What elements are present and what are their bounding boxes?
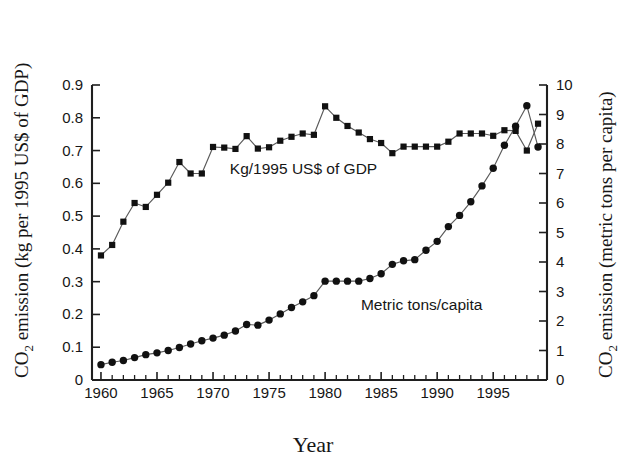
right-tick-label: 9 <box>556 106 564 123</box>
data-point-square <box>490 133 496 139</box>
data-point-square <box>288 134 294 140</box>
data-point-square <box>378 140 384 146</box>
data-point-circle <box>478 182 485 189</box>
data-point-circle <box>534 143 541 150</box>
data-point-circle <box>165 347 172 354</box>
data-point-circle <box>422 247 429 254</box>
data-point-circle <box>221 331 228 338</box>
data-point-square <box>456 130 462 136</box>
data-point-circle <box>344 277 351 284</box>
data-point-circle <box>254 321 261 328</box>
data-point-square <box>120 219 126 225</box>
left-tick-label: 0.8 <box>62 109 83 126</box>
data-point-square <box>199 170 205 176</box>
data-point-circle <box>333 277 340 284</box>
data-point-circle <box>209 334 216 341</box>
data-point-circle <box>288 304 295 311</box>
data-point-square <box>277 138 283 144</box>
left-tick-label: 0.5 <box>62 207 83 224</box>
x-tick-label: 1990 <box>420 384 453 401</box>
data-point-square <box>468 130 474 136</box>
data-point-square <box>501 127 507 133</box>
data-point-square <box>221 145 227 151</box>
right-tick-label: 10 <box>556 76 573 93</box>
x-tick-label: 1965 <box>140 384 173 401</box>
data-point-circle <box>501 141 508 148</box>
left-tick-label: 0.6 <box>62 174 83 191</box>
left-tick-label: 0.1 <box>62 338 83 355</box>
data-point-square <box>143 204 149 210</box>
data-point-circle <box>310 292 317 299</box>
data-point-square <box>255 145 261 151</box>
data-point-circle <box>108 359 115 366</box>
left-tick-label: 0.7 <box>62 142 83 159</box>
data-point-circle <box>355 277 362 284</box>
x-tick-label: 1980 <box>308 384 341 401</box>
series-annotation-square: Kg/1995 US$ of GDP <box>230 160 377 177</box>
data-point-square <box>434 144 440 150</box>
left-tick-label: 0.9 <box>62 76 83 93</box>
x-tick-label: 1960 <box>84 384 117 401</box>
right-tick-label: 2 <box>556 312 564 329</box>
data-point-circle <box>265 316 272 323</box>
data-point-square <box>389 150 395 156</box>
data-point-square <box>232 146 238 152</box>
data-point-square <box>344 123 350 129</box>
left-tick-label: 0.2 <box>62 305 83 322</box>
data-point-circle <box>400 257 407 264</box>
data-point-square <box>154 192 160 198</box>
x-tick-label: 1970 <box>196 384 229 401</box>
data-point-square <box>322 103 328 109</box>
data-point-circle <box>153 349 160 356</box>
data-point-square <box>479 130 485 136</box>
data-point-square <box>524 147 530 153</box>
data-point-square <box>109 242 115 248</box>
x-axis-title: Year <box>293 432 334 457</box>
chart-background <box>0 0 626 474</box>
data-point-square <box>98 252 104 258</box>
data-point-circle <box>277 310 284 317</box>
data-point-circle <box>142 351 149 358</box>
data-point-circle <box>411 256 418 263</box>
data-point-circle <box>176 344 183 351</box>
data-point-circle <box>467 198 474 205</box>
data-point-circle <box>433 238 440 245</box>
data-point-square <box>210 144 216 150</box>
right-tick-label: 7 <box>556 165 564 182</box>
data-point-circle <box>299 298 306 305</box>
data-point-square <box>176 159 182 165</box>
right-tick-label: 0 <box>556 371 564 388</box>
x-tick-label: 1975 <box>252 384 285 401</box>
data-point-square <box>423 144 429 150</box>
data-point-circle <box>243 321 250 328</box>
data-point-square <box>244 133 250 139</box>
data-point-square <box>165 180 171 186</box>
x-tick-label: 1985 <box>364 384 397 401</box>
right-tick-label: 4 <box>556 253 564 270</box>
left-tick-label: 0.3 <box>62 273 83 290</box>
data-point-square <box>535 121 541 127</box>
data-point-circle <box>198 337 205 344</box>
data-point-circle <box>512 123 519 130</box>
right-tick-label: 3 <box>556 283 564 300</box>
data-point-square <box>445 139 451 145</box>
chart-figure: 19601965197019751980198519901995 00.10.2… <box>0 0 626 474</box>
data-point-circle <box>120 357 127 364</box>
left-tick-label: 0.4 <box>62 240 83 257</box>
data-point-circle <box>377 270 384 277</box>
right-tick-label: 8 <box>556 135 564 152</box>
right-tick-label: 5 <box>556 224 564 241</box>
data-point-circle <box>490 164 497 171</box>
data-point-circle <box>366 275 373 282</box>
data-point-square <box>300 130 306 136</box>
data-point-square <box>412 144 418 150</box>
data-point-circle <box>131 354 138 361</box>
data-point-square <box>400 144 406 150</box>
data-point-circle <box>445 223 452 230</box>
data-point-circle <box>187 340 194 347</box>
data-point-square <box>131 200 137 206</box>
co2-emission-line-chart: 19601965197019751980198519901995 00.10.2… <box>0 0 626 474</box>
data-point-circle <box>456 212 463 219</box>
data-point-square <box>188 170 194 176</box>
data-point-circle <box>321 277 328 284</box>
